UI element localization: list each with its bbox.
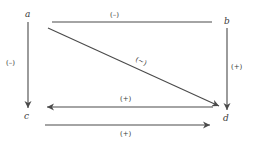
node-b: b: [224, 16, 230, 26]
node-d: d: [223, 113, 229, 123]
edge-a-c-label: (–): [6, 59, 15, 67]
edge-c-d-label: (+): [120, 130, 132, 138]
node-c: c: [24, 111, 29, 121]
edge-a-d: [48, 28, 219, 106]
diagram-canvas: a b c d (–) (~) (–) (+) (+) (+): [0, 0, 253, 144]
edge-b-d-label: (+): [231, 63, 243, 71]
edge-d-c-label: (+): [120, 95, 132, 103]
edge-a-d-label: (~): [134, 55, 148, 67]
edge-a-b-label: (–): [110, 11, 119, 19]
node-a: a: [25, 9, 30, 19]
